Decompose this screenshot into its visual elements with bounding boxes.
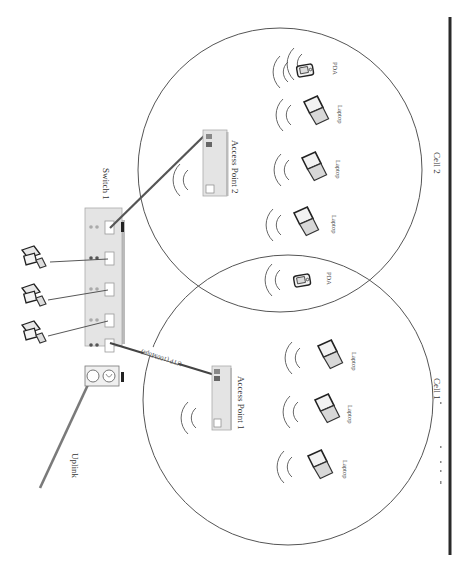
pda-device: PDA <box>265 264 333 296</box>
wireless-waves-icon <box>265 264 280 296</box>
switch-1 <box>85 208 125 386</box>
ap2-cable <box>110 132 208 228</box>
cell-2-devices: PDA Laptop Laptop Laptop PDA <box>265 48 344 296</box>
device-label: Laptop <box>335 160 342 178</box>
device-label: Laptop <box>342 460 349 478</box>
wireless-waves-icon <box>266 209 281 241</box>
ap2-label: Access Point 2 <box>230 140 240 194</box>
access-point-1 <box>181 366 232 434</box>
pda-device: PDA <box>273 48 339 88</box>
laptop-device: Laptop <box>277 449 349 483</box>
cell-2-label: Cell 2 <box>432 152 442 174</box>
ap1-label: Access Point 1 <box>236 376 246 430</box>
laptop-icon <box>307 449 333 480</box>
wireless-waves-icon <box>273 56 288 88</box>
wireless-waves-icon <box>277 451 292 483</box>
desktop-pc-icon <box>22 246 46 268</box>
desktop-pc-icon <box>22 321 46 343</box>
network-diagram: Uplink Switch 1 <box>0 0 462 563</box>
device-label: Laptop <box>337 105 344 123</box>
laptop-icon <box>293 206 319 237</box>
laptop-device: Laptop <box>276 95 344 131</box>
pda-icon <box>293 274 311 288</box>
uplink-label: Uplink <box>70 453 80 479</box>
uplink-cable <box>40 376 92 488</box>
cell-1-devices: Laptop Laptop Laptop <box>277 339 358 483</box>
laptop-icon <box>303 95 329 126</box>
laptop-device: Laptop <box>266 206 338 241</box>
pda-icon <box>296 64 314 78</box>
laptop-device: Laptop <box>274 151 342 186</box>
wireless-waves-icon <box>276 99 291 131</box>
desktop-pc-icon <box>22 284 46 306</box>
device-label: Laptop <box>347 405 354 423</box>
cell-1-boundary <box>143 255 433 545</box>
wireless-waves-icon <box>173 164 188 196</box>
cell-2-boundary <box>138 28 422 312</box>
cell-1-label: Cell 1 <box>432 378 442 400</box>
laptop-icon <box>314 393 340 424</box>
laptop-icon <box>317 339 343 370</box>
scan-marks <box>440 402 442 484</box>
wireless-waves-icon <box>285 342 300 374</box>
laptop-icon <box>301 151 327 182</box>
device-label: Laptop <box>331 215 338 233</box>
laptop-device: Laptop <box>283 393 354 428</box>
device-label: PDA <box>326 272 333 285</box>
wireless-waves-icon <box>274 154 289 186</box>
laptop-device: Laptop <box>285 339 358 374</box>
wireless-waves-icon <box>283 396 298 428</box>
device-label: PDA <box>332 62 339 75</box>
device-label: Laptop <box>351 352 358 370</box>
wireless-waves-icon <box>181 402 196 434</box>
switch-label: Switch 1 <box>101 168 111 200</box>
